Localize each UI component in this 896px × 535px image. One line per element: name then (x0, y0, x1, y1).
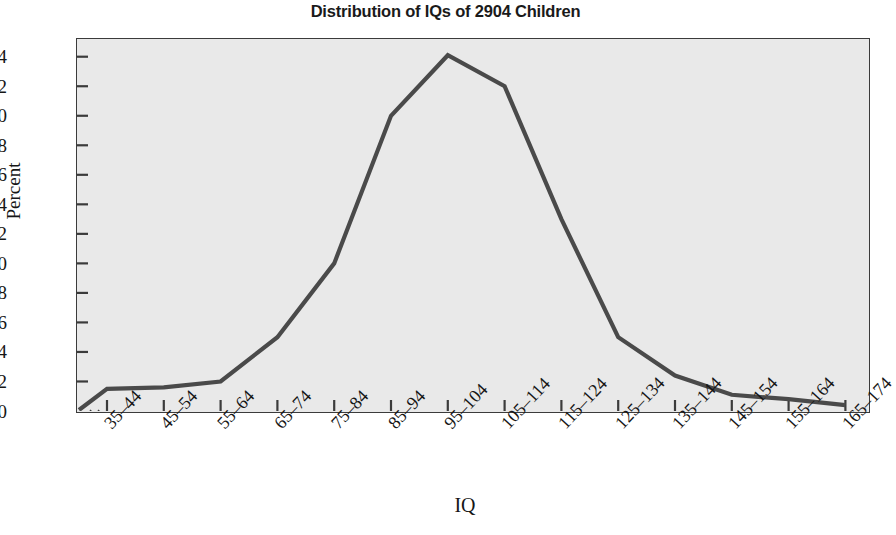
x-axis-tick-label: 65–74 (270, 386, 316, 433)
x-axis-title: IQ (395, 494, 535, 517)
x-axis-tick-label: 125–134 (611, 373, 669, 433)
x-axis-tick-label: 45–54 (156, 386, 202, 433)
x-axis-tick-label: 85–94 (384, 386, 430, 433)
x-axis-tick-label: 55–64 (213, 386, 259, 433)
x-axis-tick-label: 35–44 (100, 386, 146, 433)
x-axis-tick-label: 95–104 (440, 380, 492, 434)
x-axis-tick-label: 105–114 (497, 373, 555, 433)
x-axis-tick-label: 145–154 (724, 373, 782, 433)
x-axis-tick-label: 135–144 (668, 373, 726, 433)
x-axis-tick-label: 115–124 (554, 373, 612, 433)
x-axis-tick-label: 75–84 (327, 386, 373, 433)
x-axis-tick-label: 155–164 (781, 373, 839, 433)
x-axis-tick-label: 165–174 (838, 373, 896, 433)
